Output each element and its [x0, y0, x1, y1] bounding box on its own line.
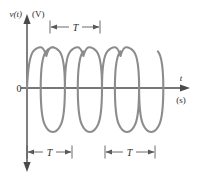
period-dimension-top: T: [50, 21, 100, 34]
period-dimension-bottom-right: T: [105, 146, 155, 159]
figure-canvas: T T T v(t) (V) 0: [0, 0, 198, 177]
y-axis-arrow-down: [23, 162, 30, 172]
period-top-arrow-left: [51, 24, 58, 29]
waveform-figure: T T T v(t) (V) 0: [0, 0, 198, 177]
y-axis-unit-label: (V): [32, 9, 45, 19]
period-dimension-bottom-left: T: [27, 146, 72, 159]
x-axis-arrow-right: [180, 84, 190, 91]
voltage-waveform: [27, 47, 163, 132]
y-axis-arrow-up: [23, 14, 30, 24]
y-axis-quantity-label: v(t): [10, 9, 23, 19]
label-group: v(t) (V) 0 t (s): [10, 9, 186, 105]
origin-label: 0: [17, 83, 22, 94]
period-br-arrow-right: [148, 149, 155, 154]
period-br-arrow-left: [106, 149, 113, 154]
period-top-arrow-right: [93, 24, 100, 29]
x-axis-quantity-label: t: [180, 73, 183, 83]
waveform-group: [27, 47, 163, 132]
x-axis-unit-label: (s): [176, 95, 186, 105]
period-bl-arrow-left: [28, 149, 35, 154]
period-bl-arrow-right: [65, 149, 72, 154]
